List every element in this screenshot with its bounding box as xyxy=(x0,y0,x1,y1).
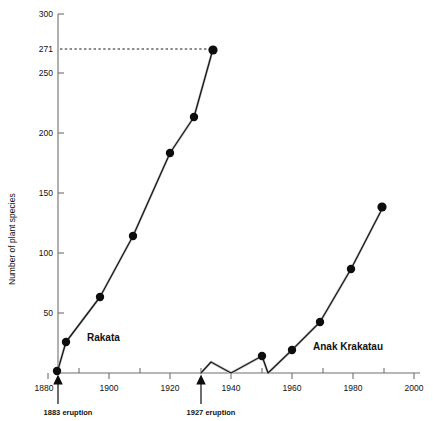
y-tick-label-300: 300 xyxy=(39,9,53,19)
anak-point-1981 xyxy=(347,265,355,273)
x-tick-label-1960: 1960 xyxy=(283,383,302,393)
x-tick-label-1920: 1920 xyxy=(161,383,180,393)
x-tick-label-2000: 2000 xyxy=(405,383,424,393)
x-tick-label-1880: 1880 xyxy=(35,383,54,393)
series-label-rakata: Rakata xyxy=(87,332,120,343)
rakata-point-1908 xyxy=(129,232,137,240)
y-axis-title: Number of plant species xyxy=(7,193,17,285)
y-tick-label-100: 100 xyxy=(39,248,53,258)
rakata-point-1897 xyxy=(96,293,104,301)
chart-background xyxy=(0,0,433,421)
annotation-label-1883: 1883 eruption xyxy=(44,408,93,417)
annotation-label-1927: 1927 eruption xyxy=(187,408,236,417)
rakata-point-1928 xyxy=(190,113,198,121)
species-accumulation-line-chart: Number of plant species 300 271 250 200 … xyxy=(0,0,433,421)
rakata-point-1883 xyxy=(53,367,61,375)
x-tick-label-1900: 1900 xyxy=(100,383,119,393)
chart-figure: Number of plant species 300 271 250 200 … xyxy=(0,0,433,421)
anak-point-1971 xyxy=(316,318,324,326)
anak-point-1989 xyxy=(377,202,386,211)
x-tick-label-1980: 1980 xyxy=(344,383,363,393)
y-tick-label-200: 200 xyxy=(39,128,53,138)
series-label-anak-krakatau: Anak Krakatau xyxy=(313,341,383,352)
y-tick-label-250: 250 xyxy=(39,68,53,78)
rakata-point-1886 xyxy=(62,338,70,346)
y-tick-label-150: 150 xyxy=(39,188,53,198)
anak-point-1950 xyxy=(258,352,266,360)
y-tick-label-271: 271 xyxy=(39,44,53,54)
y-tick-label-50: 50 xyxy=(44,308,54,318)
rakata-point-1934 xyxy=(208,45,217,54)
rakata-point-1920 xyxy=(166,149,174,157)
anak-point-1962 xyxy=(288,346,296,354)
x-tick-label-1940: 1940 xyxy=(222,383,241,393)
